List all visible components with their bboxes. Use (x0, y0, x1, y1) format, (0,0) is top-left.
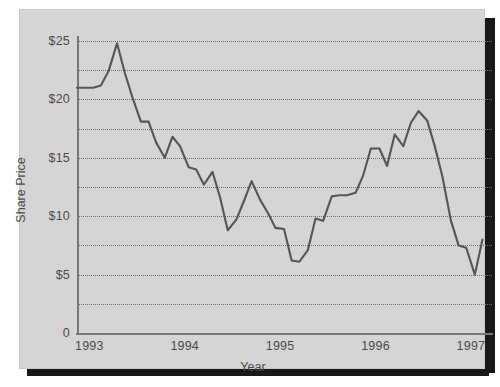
y-axis-title: Share Price (14, 130, 28, 250)
share-price-line-series (20, 10, 486, 370)
series-line (77, 43, 482, 274)
chart-figure: $25$20$15$10$50 19931994199519961997 Sha… (0, 0, 500, 387)
chart-panel: $25$20$15$10$50 19931994199519961997 Sha… (19, 9, 485, 369)
x-axis-title: Year (20, 360, 486, 374)
